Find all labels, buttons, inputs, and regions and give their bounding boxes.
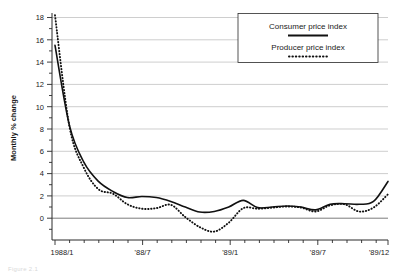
y-tick-label: 4 xyxy=(40,169,44,178)
y-tick-label: 16 xyxy=(36,36,44,45)
y-axis-tick-labels: 18 16 14 12 10 8 6 4 2 0 xyxy=(36,13,44,223)
y-tick-label: 8 xyxy=(40,125,44,134)
x-tick-label: '88/7 xyxy=(135,248,151,257)
y-tick-label: 10 xyxy=(36,103,44,112)
y-tick-label: 12 xyxy=(36,80,44,89)
y-tick-label: 14 xyxy=(36,58,44,67)
y-axis-title: Monthly % change xyxy=(9,95,18,161)
x-tick-label: '89/12 xyxy=(369,248,389,257)
legend-label-producer: Producer price index xyxy=(271,43,344,52)
legend-label-consumer: Consumer price index xyxy=(269,22,347,31)
price-index-line-chart: 18 16 14 12 10 8 6 4 2 0 Monthly % chang… xyxy=(0,0,405,272)
legend-box xyxy=(238,14,378,63)
x-axis-ticks xyxy=(55,240,388,245)
x-axis-tick-labels: 1988/1 '88/7 '89/1 '89/7 '89/12 xyxy=(51,248,390,257)
figure-caption: Figure 2.1 xyxy=(8,266,38,272)
y-tick-label: 18 xyxy=(36,13,44,22)
x-tick-label: '89/1 xyxy=(222,248,238,257)
y-tick-label: 6 xyxy=(40,147,44,156)
x-tick-label: 1988/1 xyxy=(51,248,74,257)
figure-container: 18 16 14 12 10 8 6 4 2 0 Monthly % chang… xyxy=(0,0,405,272)
y-tick-label: 0 xyxy=(40,214,44,223)
chart-legend: Consumer price index Producer price inde… xyxy=(238,14,378,63)
x-tick-label: '89/7 xyxy=(310,248,326,257)
y-axis-ticks xyxy=(47,18,52,230)
y-tick-label: 2 xyxy=(40,192,44,201)
